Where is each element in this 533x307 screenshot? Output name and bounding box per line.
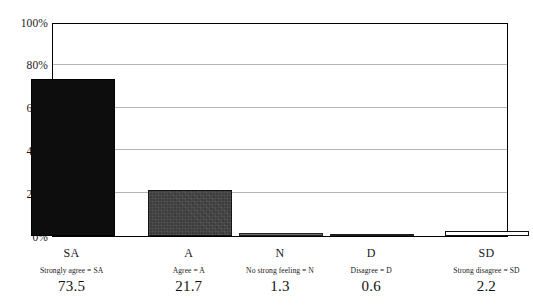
bar-a	[148, 190, 232, 236]
bar-sa	[31, 79, 115, 236]
gridline	[53, 192, 507, 193]
category-legend-text: Strong disagree = SD	[426, 266, 533, 276]
category-legend-text: Strongly agree = SA	[12, 266, 132, 276]
y-axis-tick-label: 100%	[2, 18, 48, 30]
bar-d	[330, 234, 414, 237]
category-code: SD	[426, 247, 533, 260]
category-value: 0.6	[311, 278, 431, 295]
category-label-group-sd: SDStrong disagree = SD2.2	[426, 247, 533, 295]
category-label-group-d: DDisagree = D0.6	[311, 247, 431, 295]
category-label-group-sa: SAStrongly agree = SA73.5	[12, 247, 132, 295]
gridline	[53, 149, 507, 150]
bar-sd	[445, 231, 529, 236]
y-axis-tick-label: 80%	[2, 60, 48, 72]
gridline	[53, 64, 507, 65]
gridline	[53, 107, 507, 108]
category-value: 2.2	[426, 278, 533, 295]
category-value: 73.5	[12, 278, 132, 295]
category-code: D	[311, 247, 431, 260]
category-code: SA	[12, 247, 132, 260]
bar-n	[239, 233, 323, 236]
category-legend-text: Disagree = D	[311, 266, 431, 276]
plot-area	[52, 23, 508, 237]
